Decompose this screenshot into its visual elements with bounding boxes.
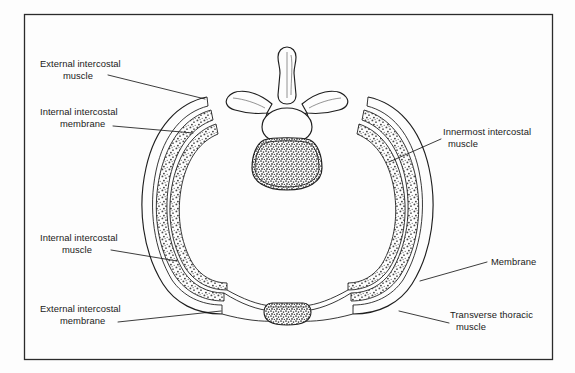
- transverse-process-left: [226, 91, 272, 113]
- label-internal-intercostal-muscle: Internal intercostal muscle: [40, 232, 120, 255]
- sternum: [264, 303, 311, 325]
- label-membrane: Membrane: [491, 256, 536, 267]
- transverse-process-right: [302, 91, 348, 113]
- leader-membrane: [420, 262, 487, 281]
- thorax-cross-section-diagram: External intercostal muscle Internal int…: [0, 0, 575, 373]
- label-innermost-intercostal-muscle: Innermost intercostal muscle: [443, 126, 534, 149]
- label-internal-intercostal-membrane: Internal intercostal membrane: [40, 106, 120, 129]
- right-hemithorax: [325, 85, 445, 325]
- figure-root: External intercostal muscle Internal int…: [0, 0, 575, 373]
- vertebral-body: [252, 138, 322, 190]
- label-external-intercostal-membrane: External intercostal membrane: [40, 303, 123, 326]
- thoracic-vertebra: [226, 47, 348, 190]
- label-external-intercostal-muscle: External intercostal muscle: [40, 58, 123, 81]
- label-transverse-thoracic-muscle: Transverse thoracic muscle: [450, 309, 536, 332]
- leader-external-intercostal-membrane: [118, 311, 221, 322]
- left-hemithorax: [130, 85, 250, 325]
- leader-transverse-thoracic-muscle: [399, 311, 449, 323]
- leader-external-intercostal-muscle: [108, 75, 205, 99]
